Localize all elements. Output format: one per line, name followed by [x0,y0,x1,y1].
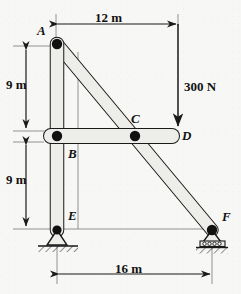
joint-label-C: C [131,112,140,125]
joint-F [207,225,217,235]
joint-B [52,131,62,141]
dim-label-12m: 12 m [95,11,122,24]
dim-label-16m: 16 m [115,262,142,275]
joint-C [130,131,140,141]
truss-diagram [0,0,241,294]
dim-label-9m-upper: 9 m [6,78,27,91]
dim-label-9m-lower: 9 m [6,173,27,186]
joint-label-E: E [68,209,77,222]
load-label-300N: 300 N [184,80,216,93]
joint-A [52,39,62,49]
extension-lines [13,14,212,284]
joint-label-F: F [222,210,231,223]
joint-label-A: A [37,24,46,37]
joint-label-B: B [68,147,77,160]
joint-label-D: D [182,129,191,142]
joint-E [52,225,61,234]
